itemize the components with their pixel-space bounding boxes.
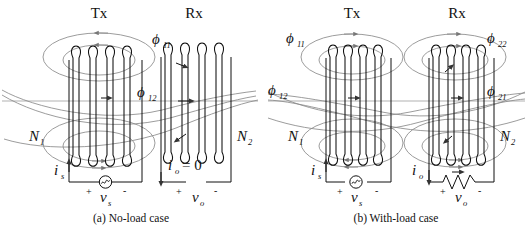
svg-text:N: N	[499, 128, 511, 144]
source-voltage-label-b: v s	[351, 189, 363, 208]
flux-label-12-a: ϕ 12	[137, 84, 157, 103]
svg-text:22: 22	[498, 39, 507, 49]
svg-text:ϕ: ϕ	[152, 31, 160, 47]
rx-coil-arrow-bottom-a	[176, 134, 186, 141]
tx-ac-source-sine-a	[102, 180, 110, 183]
rx-coil-a	[163, 43, 223, 163]
source-minus-sign-b: -	[375, 185, 378, 196]
svg-text:11: 11	[297, 39, 305, 49]
flux-label-21-b: ϕ 21	[487, 83, 507, 102]
svg-text:11: 11	[163, 40, 171, 50]
rx-header-label-a: Rx	[185, 5, 203, 21]
svg-text:o: o	[175, 166, 179, 176]
svg-text:21: 21	[498, 92, 507, 102]
svg-text:12: 12	[148, 93, 157, 103]
svg-text:ϕ: ϕ	[286, 30, 294, 46]
load-plus-sign-b: +	[440, 186, 446, 197]
load-voltage-label-a: v o	[192, 189, 204, 208]
source-current-label-a: i s	[54, 162, 65, 181]
svg-text:N: N	[28, 128, 40, 144]
svg-text:ϕ: ϕ	[268, 82, 276, 98]
flux-label-12-b: ϕ 12	[268, 82, 288, 101]
turns-label-n2-b: N 2	[499, 128, 516, 147]
turns-label-n1-a: N 1	[28, 128, 44, 147]
svg-text:12: 12	[279, 91, 288, 101]
svg-text:1: 1	[299, 137, 303, 147]
source-minus-sign-a: -	[123, 185, 126, 196]
svg-text:i: i	[311, 162, 315, 178]
turns-label-n2-a: N 2	[236, 128, 253, 147]
panel-b: Tx Rx ϕ 11 ϕ 22 ϕ 12 ϕ 21 N 1	[268, 5, 525, 225]
load-current-label-b: i o	[412, 162, 423, 181]
svg-text:N: N	[287, 128, 299, 144]
inductive-coupling-diagram: Tx Rx ϕ 11 ϕ 12 N 1 N 2 i s	[0, 0, 527, 228]
svg-text:v: v	[455, 189, 462, 205]
svg-text:ϕ: ϕ	[487, 30, 495, 46]
tx-ac-source-sine-b	[352, 180, 360, 183]
source-current-label-b: i s	[311, 162, 322, 181]
svg-text:ϕ: ϕ	[487, 83, 495, 99]
source-voltage-label-a: v s	[100, 189, 112, 208]
svg-text:s: s	[318, 171, 322, 181]
flux-label-11-a: ϕ 11	[152, 31, 171, 50]
flux-label-11-b: ϕ 11	[286, 30, 305, 49]
svg-text:2: 2	[511, 137, 516, 147]
tx-header-label-a: Tx	[91, 5, 108, 21]
mutual-flux-curve-b-2	[268, 99, 525, 131]
tx-flux-ellipse-outer-b	[301, 34, 403, 80]
rx-coil-arrow-top-a	[176, 63, 186, 67]
svg-text:= 0: = 0	[182, 157, 202, 173]
load-current-label-a: i o = 0	[168, 157, 202, 176]
svg-text:i: i	[54, 162, 58, 178]
load-minus-sign-a: -	[214, 185, 217, 196]
rx-resistor-symbol-b	[443, 175, 478, 189]
load-minus-sign-b: -	[478, 185, 481, 196]
source-plus-sign-b: +	[337, 186, 343, 197]
svg-text:i: i	[412, 162, 416, 178]
svg-text:s: s	[359, 198, 363, 208]
tx-flux-ellipse-lower-outer-a	[43, 118, 155, 168]
svg-text:v: v	[351, 189, 358, 205]
tx-coil-a	[71, 46, 131, 166]
figure-container: Tx Rx ϕ 11 ϕ 12 N 1 N 2 i s	[0, 0, 527, 228]
mutual-flux-curve-b-4	[268, 100, 525, 131]
svg-text:i: i	[168, 157, 172, 173]
tx-header-label-b: Tx	[344, 5, 361, 21]
svg-text:s: s	[108, 198, 112, 208]
caption-a: (a) No-load case	[93, 212, 169, 225]
panel-a: Tx Rx ϕ 11 ϕ 12 N 1 N 2 i s	[2, 5, 258, 225]
caption-b: (b) With-load case	[354, 212, 439, 225]
rx-coil-b	[431, 45, 485, 165]
svg-text:v: v	[100, 189, 107, 205]
svg-text:o: o	[200, 198, 204, 208]
source-plus-sign-a: +	[86, 186, 92, 197]
svg-text:o: o	[463, 198, 467, 208]
rx-header-label-b: Rx	[448, 5, 466, 21]
svg-text:1: 1	[40, 137, 44, 147]
svg-text:v: v	[192, 189, 199, 205]
svg-text:N: N	[236, 128, 248, 144]
svg-text:s: s	[61, 171, 65, 181]
svg-text:2: 2	[248, 137, 253, 147]
tx-coil-b	[328, 45, 382, 165]
turns-label-n1-b: N 1	[287, 128, 303, 147]
svg-text:o: o	[419, 171, 423, 181]
flux-label-22-b: ϕ 22	[487, 30, 507, 49]
svg-text:ϕ: ϕ	[137, 84, 145, 100]
load-voltage-label-b: v o	[455, 189, 467, 208]
mutual-flux-curve-a-1	[2, 95, 256, 124]
load-plus-sign-a: +	[176, 186, 182, 197]
tx-flux-ellipse-outer-a	[43, 33, 155, 81]
